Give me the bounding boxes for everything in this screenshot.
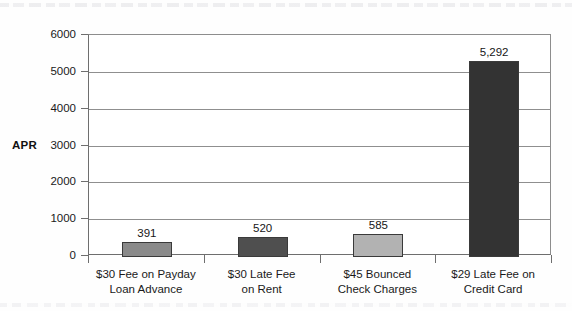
category-separator <box>435 255 436 263</box>
x-axis-category-label-line: $30 Fee on Payday <box>88 267 204 282</box>
y-tick-4000 <box>81 108 88 109</box>
y-tick-label: 6000 <box>30 28 76 40</box>
y-tick-label: 4000 <box>30 102 76 114</box>
bar <box>469 61 519 257</box>
bar-value-label: 585 <box>338 219 418 231</box>
y-tick-label: 2000 <box>30 175 76 187</box>
x-axis-category-label-line: Credit Card <box>435 282 551 297</box>
category-separator <box>204 255 205 263</box>
category-separator <box>88 255 89 263</box>
y-tick-3000 <box>81 145 88 146</box>
x-axis-category-label: $29 Late Fee onCredit Card <box>435 267 551 296</box>
category-separator <box>551 255 552 263</box>
y-tick-label: 5000 <box>30 65 76 77</box>
y-tick-label: 0 <box>30 249 76 261</box>
bar <box>353 234 403 257</box>
bar-value-label: 520 <box>223 222 303 234</box>
bar <box>238 237 288 257</box>
x-axis-category-label: $30 Late Feeon Rent <box>204 267 320 296</box>
y-axis-title: APR <box>12 139 52 151</box>
y-tick-1000 <box>81 218 88 219</box>
bar <box>122 242 172 257</box>
x-axis-category-label: $45 BouncedCheck Charges <box>320 267 436 296</box>
y-tick-6000 <box>81 34 88 35</box>
bar-chart-figure: 3915205855,292 0100020003000400050006000… <box>0 0 572 311</box>
bar-value-label: 5,292 <box>454 46 534 58</box>
y-tick-0 <box>81 255 88 256</box>
x-axis-category-label: $30 Fee on PaydayLoan Advance <box>88 267 204 296</box>
x-axis-category-label-line: $29 Late Fee on <box>435 267 551 282</box>
category-separator <box>320 255 321 263</box>
x-axis-category-label-line: Loan Advance <box>88 282 204 297</box>
y-tick-label: 1000 <box>30 212 76 224</box>
x-axis-category-label-line: Check Charges <box>320 282 436 297</box>
x-axis-category-label-line: $30 Late Fee <box>204 267 320 282</box>
y-tick-5000 <box>81 71 88 72</box>
bar-value-label: 391 <box>107 227 187 239</box>
plot-area: 3915205855,292 <box>88 34 551 255</box>
y-tick-2000 <box>81 181 88 182</box>
x-axis-category-label-line: $45 Bounced <box>320 267 436 282</box>
x-axis-category-label-line: on Rent <box>204 282 320 297</box>
